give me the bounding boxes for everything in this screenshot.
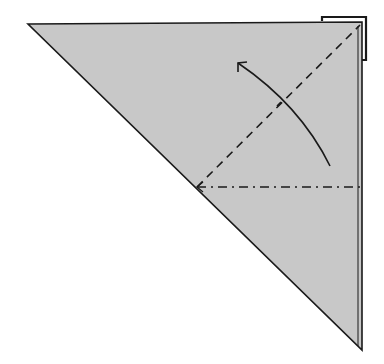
diagram-canvas bbox=[0, 0, 384, 364]
origami-diagram bbox=[0, 0, 384, 364]
paper-triangle bbox=[28, 22, 362, 350]
